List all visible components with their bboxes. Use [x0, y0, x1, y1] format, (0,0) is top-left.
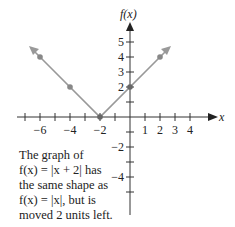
svg-text:5: 5 — [118, 35, 124, 49]
svg-text:3: 3 — [118, 65, 124, 79]
svg-text:4: 4 — [118, 50, 124, 64]
svg-text:4: 4 — [187, 123, 193, 137]
svg-text:3: 3 — [172, 123, 178, 137]
svg-text:2: 2 — [157, 123, 163, 137]
x-axis-arrow-icon — [208, 113, 218, 121]
y-axis-label: f(x) — [120, 7, 137, 21]
x-axis-label: x — [218, 110, 225, 124]
data-points — [37, 54, 163, 120]
abs-function-line — [34, 51, 166, 117]
svg-text:−2: −2 — [94, 123, 107, 137]
svg-text:2: 2 — [118, 80, 124, 94]
svg-text:−6: −6 — [34, 123, 47, 137]
caption-annotation: The graph of f(x) = |x + 2| has the same… — [19, 148, 119, 223]
svg-text:−4: −4 — [64, 123, 77, 137]
y-axis-arrow-icon — [126, 22, 134, 31]
x-tick-labels: −6 −4 −2 1 2 3 4 — [34, 123, 193, 137]
svg-text:1: 1 — [142, 123, 148, 137]
